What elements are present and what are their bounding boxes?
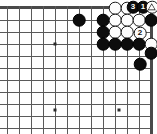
stone-white[interactable]	[121, 26, 134, 39]
star-point-right-lower	[118, 109, 121, 112]
stone-black[interactable]	[145, 14, 157, 27]
star-point-left-lower	[54, 109, 57, 112]
grid-line-horizontal-6	[0, 80, 153, 81]
grid-line-vertical-4	[55, 6, 56, 134]
stone-black[interactable]	[134, 58, 147, 71]
stone-black[interactable]	[97, 26, 110, 39]
stone-black[interactable]	[73, 14, 86, 27]
stone-black[interactable]	[133, 38, 146, 51]
stone-white[interactable]	[146, 1, 157, 14]
stone-black[interactable]	[145, 47, 157, 60]
grid-line-horizontal-9	[0, 116, 153, 117]
stone-black[interactable]	[121, 38, 134, 51]
stone-move-number: 2	[135, 28, 146, 39]
grid-line-vertical-3	[43, 6, 44, 134]
grid-line-horizontal-4	[0, 56, 153, 57]
grid-line-vertical-0	[7, 6, 8, 134]
grid-line-vertical-5	[67, 6, 68, 134]
stone-black[interactable]	[97, 14, 110, 27]
stone-white[interactable]	[121, 14, 134, 27]
grid-line-vertical-2	[31, 6, 32, 134]
grid-line-horizontal-7	[0, 92, 153, 93]
stone-white[interactable]	[133, 14, 146, 27]
grid-line-vertical-1	[19, 6, 20, 134]
grid-line-horizontal-8	[0, 104, 153, 105]
stone-white[interactable]	[109, 26, 122, 39]
grid-line-horizontal-10	[0, 128, 153, 129]
grid-line-vertical-7	[91, 6, 92, 134]
stone-black[interactable]	[109, 38, 122, 51]
stone-white[interactable]	[109, 14, 122, 27]
go-board-surface[interactable]: 312	[0, 0, 157, 134]
grid-line-horizontal-5	[0, 68, 153, 69]
stone-white[interactable]	[109, 2, 122, 15]
go-board-diagram: 312	[0, 0, 157, 134]
triangle-marker-inner-icon	[149, 5, 155, 10]
star-point-left-upper	[54, 43, 57, 46]
stone-black[interactable]	[97, 38, 110, 51]
